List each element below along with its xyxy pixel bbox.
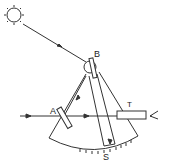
sun-ray bbox=[23, 24, 86, 62]
mirror-a bbox=[57, 107, 72, 129]
index-arm bbox=[89, 74, 115, 146]
diagram-canvas bbox=[0, 0, 170, 167]
sextant-diagram: B A T S bbox=[0, 0, 170, 167]
telescope bbox=[117, 111, 146, 119]
reflected-arrow bbox=[76, 95, 80, 100]
reflected-ray bbox=[64, 76, 86, 116]
eye-icon bbox=[150, 111, 158, 119]
scale-arc bbox=[49, 136, 138, 150]
label-s: S bbox=[103, 153, 109, 162]
label-a: A bbox=[50, 107, 56, 116]
label-b: B bbox=[94, 50, 100, 59]
sun-icon bbox=[4, 5, 24, 25]
label-t: T bbox=[127, 101, 132, 109]
